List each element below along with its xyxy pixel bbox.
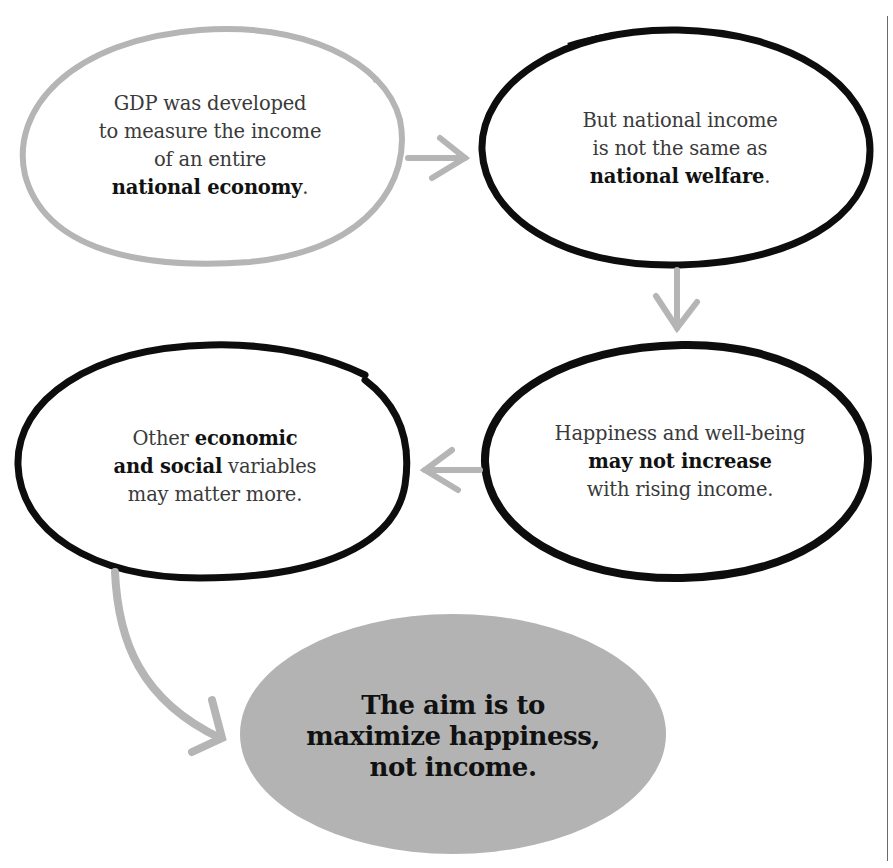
node-aim-text: The aim is to maximize happiness, not in…	[258, 690, 648, 783]
arrow-right-icon	[408, 138, 465, 178]
node-other-variables-line-2: and social variables	[60, 453, 370, 481]
node-happiness-line-1: Happiness and well-being	[510, 420, 850, 448]
node-gdp-line-3: of an entire	[60, 146, 360, 174]
node-gdp-emphasis: national economy	[112, 176, 302, 199]
node-other-variables-emphasis-2: and social	[114, 455, 223, 478]
flow-diagram: GDP was developed to measure the income …	[0, 0, 893, 868]
arrow-down-icon	[656, 270, 697, 328]
page-edge-rule	[887, 16, 888, 861]
node-gdp-line-4: national economy.	[60, 174, 360, 202]
node-other-variables-text: Other economic and social variables may …	[60, 425, 370, 509]
prefix: Other	[132, 427, 194, 450]
arrow-curved-icon	[115, 572, 222, 752]
node-other-variables-line-3: may matter more.	[60, 481, 370, 509]
arrow-left-icon	[425, 450, 480, 490]
node-aim-line-3: not income.	[258, 752, 648, 783]
period: .	[302, 176, 308, 199]
node-income-welfare-line-3: national welfare.	[520, 163, 840, 191]
node-happiness-line-2: may not increase	[510, 448, 850, 476]
suffix: variables	[222, 455, 316, 478]
node-happiness-emphasis: may not increase	[588, 450, 771, 473]
node-income-welfare-line-2: is not the same as	[520, 135, 840, 163]
node-other-variables-line-1: Other economic	[60, 425, 370, 453]
node-aim-line-2: maximize happiness,	[258, 721, 648, 752]
node-gdp-line-2: to measure the income	[60, 118, 360, 146]
node-income-welfare-emphasis: national welfare	[590, 165, 764, 188]
node-happiness-text: Happiness and well-being may not increas…	[510, 420, 850, 504]
node-aim-line-1: The aim is to	[258, 690, 648, 721]
period: .	[764, 165, 770, 188]
node-other-variables-emphasis-1: economic	[195, 427, 298, 450]
node-happiness-line-3: with rising income.	[510, 476, 850, 504]
node-income-welfare-text: But national income is not the same as n…	[520, 107, 840, 191]
node-income-welfare-line-1: But national income	[520, 107, 840, 135]
node-gdp-line-1: GDP was developed	[60, 90, 360, 118]
node-gdp-text: GDP was developed to measure the income …	[60, 90, 360, 202]
